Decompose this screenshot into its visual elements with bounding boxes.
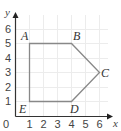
x-tick: 3	[55, 118, 61, 130]
origin-label: 0	[3, 118, 9, 130]
x-tick: 4	[69, 118, 75, 130]
y-tick: 5	[5, 37, 11, 49]
coordinate-diagram: x y 0 1 2 3 4 5 6 1 2 3 4 5 6 A B C D E	[0, 0, 121, 131]
vertex-label-a: A	[20, 29, 29, 43]
x-tick: 5	[83, 118, 89, 130]
y-tick: 1	[5, 95, 11, 107]
y-tick: 4	[5, 52, 11, 64]
y-tick: 6	[5, 23, 11, 35]
y-axis-arrow-icon	[13, 12, 19, 18]
x-tick: 2	[41, 118, 47, 130]
vertex-label-b: B	[73, 29, 81, 43]
x-axis-label: x	[112, 117, 118, 129]
x-tick: 1	[27, 118, 33, 130]
vertex-label-d: D	[69, 102, 79, 116]
x-tick: 6	[97, 118, 103, 130]
vertex-label-c: C	[101, 66, 110, 80]
y-tick: 2	[5, 81, 11, 93]
vertex-label-e: E	[18, 102, 27, 116]
coordinate-plane: x y 0 1 2 3 4 5 6 1 2 3 4 5 6 A B C D E	[0, 0, 121, 131]
x-tick-labels: 1 2 3 4 5 6	[27, 118, 103, 130]
y-axis-label: y	[4, 6, 10, 18]
y-tick: 3	[5, 66, 11, 78]
y-tick-labels: 1 2 3 4 5 6	[5, 23, 11, 107]
